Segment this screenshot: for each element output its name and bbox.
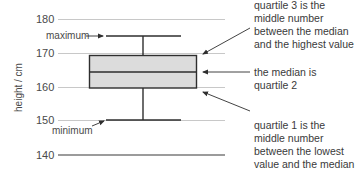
quartile-1-annotation: quartile 1 is the middle number between … [254,119,354,171]
quartile-1-arrow [203,92,250,111]
box-plot-diagram: height / cm 180 170 160 150 140 maximum … [0,0,355,173]
quartile-3-arrow [203,28,250,54]
median-annotation: the median is quartile 2 [254,66,316,92]
quartile-3-annotation: quartile 3 is the middle number between … [254,0,354,51]
minimum-arrow [92,121,104,126]
